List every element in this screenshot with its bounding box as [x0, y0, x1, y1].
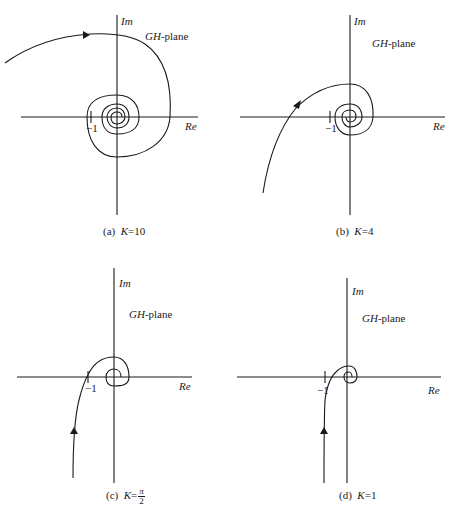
panel-b-caption: (b) K=4 [336, 226, 373, 237]
panel-b-plane-label-gh: GH [372, 37, 388, 49]
panel-d-plane-label-rest: -plane [378, 312, 405, 324]
panel-c-caption: (c) K=π2 [106, 487, 145, 506]
panel-c-im-label: Im [119, 278, 131, 289]
panel-c-nyquist-curve [73, 357, 129, 478]
panel-b-caption-k: K [354, 225, 361, 237]
panel-b-caption-value: =4 [362, 225, 374, 237]
panel-a-plot [5, 15, 198, 215]
panel-a-tick-label: −1 [86, 123, 98, 134]
panel-a-caption-k: K [121, 225, 128, 237]
panel-a-caption-prefix: (a) [103, 225, 115, 237]
panel-d-direction-arrow-icon [320, 427, 328, 434]
panel-c-caption-k: K [124, 489, 131, 501]
panel-d-plane-label-gh: GH [362, 312, 378, 324]
panel-a-plane-label-rest: -plane [161, 30, 188, 42]
panel-a-re-label: Re [185, 121, 197, 132]
panel-c-direction-arrow-icon [70, 427, 78, 434]
panel-b-re-label: Re [433, 121, 445, 132]
panel-c-plane-label-rest: -plane [145, 308, 172, 320]
panel-a-direction-arrow-icon [83, 31, 90, 39]
panel-c-caption-prefix: (c) [106, 489, 118, 501]
panel-c-plane-label-gh: GH [129, 308, 145, 320]
panel-d-caption: (d) K=1 [339, 490, 376, 501]
panel-d-caption-k: K [357, 489, 364, 501]
panel-a-caption-value: =10 [128, 225, 145, 237]
panel-b-direction-arrow-icon [293, 100, 301, 109]
panel-a-im-label: Im [121, 16, 133, 27]
panel-c-plane-label: GH-plane [129, 309, 172, 320]
panel-c-re-label: Re [179, 381, 191, 392]
panel-d-plot [237, 278, 441, 483]
panel-d-tick-label: −1 [317, 385, 329, 396]
panel-d-plane-label: GH-plane [362, 313, 405, 324]
panel-a-caption: (a) K=10 [103, 226, 145, 237]
panel-d-caption-prefix: (d) [339, 489, 352, 501]
panel-a-plane-label: GH-plane [145, 31, 188, 42]
panel-c-plot [17, 268, 192, 483]
panel-a-plane-label-gh: GH [145, 30, 161, 42]
panel-b-tick-label: −1 [325, 123, 337, 134]
panel-c-caption-fraction: π2 [138, 487, 145, 506]
panel-b-nyquist-curve [263, 84, 373, 193]
panel-b-caption-prefix: (b) [336, 225, 349, 237]
panel-c-caption-denominator: 2 [138, 497, 145, 506]
panel-d-caption-value: =1 [365, 489, 377, 501]
nyquist-figure [0, 0, 455, 516]
panel-b-plane-label-rest: -plane [388, 37, 415, 49]
panel-d-im-label: Im [352, 286, 364, 297]
panel-d-re-label: Re [428, 385, 440, 396]
panel-d-nyquist-curve [324, 366, 357, 483]
panel-b-im-label: Im [354, 16, 366, 27]
panel-c-tick-label: −1 [85, 383, 97, 394]
panel-a-nyquist-curve [5, 34, 170, 157]
panel-c-caption-eq: = [131, 489, 137, 501]
panel-b-plane-label: GH-plane [372, 38, 415, 49]
